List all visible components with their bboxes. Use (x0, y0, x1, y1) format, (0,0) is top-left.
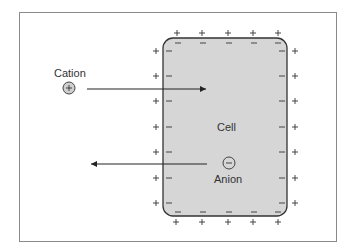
cation-label: Cation (54, 67, 86, 79)
membrane-diagram (0, 0, 355, 252)
cell-label: Cell (217, 121, 236, 133)
anion-label: Anion (214, 173, 242, 185)
